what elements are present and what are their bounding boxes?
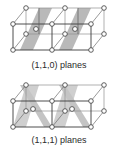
vertex-front-bottom-left xyxy=(11,48,16,53)
cubic-lattice-110-diagram xyxy=(0,0,118,60)
vertex-back-bottom-right xyxy=(102,109,107,114)
vertex-back-bottom-mid xyxy=(63,109,68,114)
vertex-front-top-right xyxy=(89,22,94,27)
atom-center-left xyxy=(31,107,36,112)
vertex-back-bottom-left xyxy=(24,32,29,37)
panel-110-planes: (1,1,0) planes xyxy=(0,0,118,77)
atom-center-left xyxy=(34,27,39,32)
edge-depth-br xyxy=(91,34,104,50)
vertex-front-bottom-right xyxy=(89,125,94,130)
vertex-back-top-mid xyxy=(63,83,68,88)
vertex-front-top-left xyxy=(11,22,16,27)
crystal-planes-figure: (1,1,0) planes xyxy=(0,0,118,155)
vertex-front-top-mid xyxy=(50,99,55,104)
vertex-back-bottom-mid xyxy=(63,32,68,37)
caption-110-planes: (1,1,0) planes xyxy=(0,60,118,71)
atom-center-right xyxy=(73,27,78,32)
edge-depth-tr xyxy=(91,85,104,101)
caption-111-planes: (1,1,1) planes xyxy=(0,135,118,146)
vertex-front-bottom-mid xyxy=(50,48,55,53)
panel-111-planes: (1,1,1) planes xyxy=(0,77,118,155)
edge-depth-br xyxy=(91,111,104,127)
vertex-front-top-right xyxy=(89,99,94,104)
vertex-front-top-left xyxy=(11,99,16,104)
atom-center-right xyxy=(70,107,75,112)
vertex-back-top-left xyxy=(24,83,29,88)
vertex-back-top-left xyxy=(24,6,29,11)
vertex-back-bottom-left xyxy=(24,109,29,114)
cubic-lattice-111-diagram xyxy=(0,77,118,137)
edge-depth-tl xyxy=(13,8,26,24)
vertex-back-top-mid xyxy=(63,6,68,11)
vertex-front-bottom-right xyxy=(89,48,94,53)
vertex-back-top-right xyxy=(102,6,107,11)
vertex-front-bottom-mid xyxy=(50,125,55,130)
edge-depth-tr xyxy=(91,8,104,24)
vertex-front-top-mid xyxy=(50,22,55,27)
vertex-back-bottom-right xyxy=(102,32,107,37)
edge-depth-tm xyxy=(52,8,65,24)
vertex-back-top-right xyxy=(102,83,107,88)
vertex-front-bottom-left xyxy=(11,125,16,130)
shaded-planes-110 xyxy=(20,8,91,50)
